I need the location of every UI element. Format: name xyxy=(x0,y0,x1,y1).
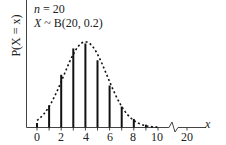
n-value: = 20 xyxy=(40,2,65,16)
tick-label-6: 6 xyxy=(107,130,113,145)
annotation-n: n = 20 xyxy=(34,3,65,15)
tick-label-20: 20 xyxy=(181,130,193,145)
tick-label-4: 4 xyxy=(83,130,89,145)
tick-label-8: 8 xyxy=(130,130,136,145)
tick-label-10: 10 xyxy=(151,130,163,145)
tick-label-2: 2 xyxy=(58,130,64,145)
dist-value: ~ B(20, 0.2) xyxy=(41,16,103,30)
y-axis-label: P(X = x) xyxy=(9,10,24,62)
x-axis-label: x xyxy=(205,118,210,130)
tick-label-0: 0 xyxy=(34,130,40,145)
annotation-distribution: X ~ B(20, 0.2) xyxy=(34,17,103,29)
x-axis-break-icon xyxy=(166,122,180,132)
probability-bars xyxy=(37,43,146,127)
